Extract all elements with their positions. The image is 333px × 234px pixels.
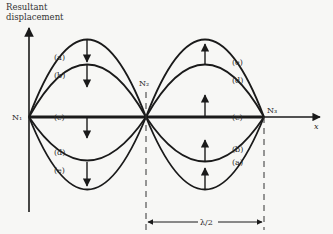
label-e-left: (e): [54, 166, 65, 175]
label-c-right: (c): [232, 113, 243, 122]
label-a-right: (a): [232, 158, 243, 167]
label-c-left: (c): [54, 113, 65, 122]
label-a-left: (a): [54, 53, 65, 62]
label-d-right: (d): [232, 76, 243, 85]
label-b-right: (b): [232, 145, 243, 154]
diagram-svg: N₁ N₂ N₃ x (a) (b) (c) (d) (e) (e) (d) (…: [0, 0, 333, 234]
standing-wave-diagram: Resultant displacement: [0, 0, 333, 234]
node-n1-label: N₁: [12, 113, 22, 122]
label-e-right: (e): [232, 58, 243, 67]
label-b-left: (b): [54, 71, 65, 80]
x-axis-label: x: [314, 122, 319, 131]
node-n3-label: N₃: [267, 106, 277, 115]
wavelength-label: λ/2: [200, 218, 213, 227]
node-n2-label: N₂: [139, 79, 149, 88]
label-d-left: (d): [54, 148, 65, 157]
